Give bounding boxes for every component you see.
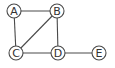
node-e: E xyxy=(92,46,106,60)
node-d-label: D xyxy=(54,47,62,60)
edge-b-c xyxy=(16,11,57,53)
node-c-label: C xyxy=(12,47,20,60)
node-b-label: B xyxy=(53,5,61,18)
node-a: A xyxy=(7,4,21,18)
nodes: A B C D E xyxy=(7,4,106,60)
node-e-label: E xyxy=(96,47,103,60)
graph-diagram: A B C D E xyxy=(0,0,115,68)
node-a-label: A xyxy=(10,5,18,18)
node-b: B xyxy=(50,4,64,18)
node-c: C xyxy=(9,46,23,60)
node-d: D xyxy=(51,46,65,60)
